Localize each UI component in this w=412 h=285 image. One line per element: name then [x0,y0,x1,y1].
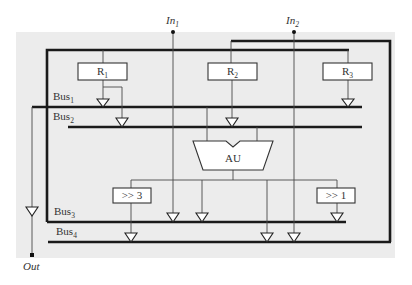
in1-label: In1 [165,14,179,29]
out-label: Out [23,260,40,272]
out-terminal [30,253,34,257]
in2-terminal [292,30,296,34]
in1-terminal [171,30,175,34]
in2-label: In2 [285,14,299,29]
shr3-label: >> 3 [122,189,143,201]
datapath-diagram: In1 In2 Out R1 R2 R3 Bus1 Bus2 Bus3 Bus4… [0,0,412,285]
au-label: AU [225,152,241,164]
shr1-label: >> 1 [326,189,347,201]
